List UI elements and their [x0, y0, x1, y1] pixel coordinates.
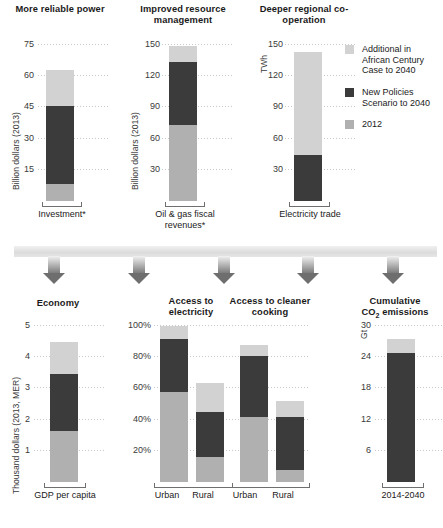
bar-electricity-rural[interactable]	[196, 383, 224, 482]
bar-segment-additional[interactable]	[276, 401, 304, 417]
bar-cooking-rural[interactable]	[276, 401, 304, 482]
chart-title-deeper-regional-cooperation: Deeper regional co-operation	[251, 4, 357, 26]
y-tick-label: 15	[14, 165, 34, 174]
chart-title-line-2-pre: CO	[361, 307, 375, 317]
plot-area-improved-resource-management	[162, 44, 232, 201]
chart-panel-improved-resource-management: Improved resource management Billion dol…	[120, 0, 245, 232]
category-label-electricity-rural: Rural	[183, 490, 223, 501]
arrow-shaft	[387, 256, 399, 273]
axis-tick	[81, 202, 82, 207]
category-label-electricity-trade: Electricity trade	[271, 209, 349, 220]
plot-area-economy	[34, 325, 106, 482]
category-label-oil-gas-fiscal-revenues: Oil & gas fiscal revenues*	[138, 209, 232, 230]
bar-segment-2012[interactable]	[50, 431, 78, 482]
bar-segment-additional[interactable]	[50, 342, 78, 374]
y-tick-label: 60	[14, 71, 34, 80]
bar-segment-2012[interactable]	[240, 417, 268, 482]
bar-segment-new-policies[interactable]	[276, 417, 304, 470]
y-tick-label: 12	[351, 415, 371, 424]
y-tick-label: 30	[136, 165, 160, 174]
axis-tick	[329, 202, 330, 207]
bar-segment-new-policies[interactable]	[196, 412, 224, 457]
chart-title-access-to-electricity: Access to electricity	[155, 296, 227, 318]
x-axis	[382, 487, 424, 488]
bar-oil-gas-fiscal-revenues[interactable]	[169, 46, 197, 201]
y-tick-label: 60	[259, 134, 283, 143]
plot-area-access-group	[154, 325, 310, 482]
y-tick-label: 24	[351, 352, 371, 361]
legend-swatch-additional	[345, 45, 354, 54]
bar-segment-new-policies[interactable]	[160, 339, 188, 392]
bar-segment-2012[interactable]	[276, 470, 304, 483]
y-axis-label-more-reliable-power: Billion dollars (2013)	[11, 112, 21, 190]
y-tick-label: 90	[259, 102, 283, 111]
chart-title-line-2-post: emissions	[380, 307, 429, 317]
chart-panel-deeper-regional-cooperation: Deeper regional co-operation TWh 150 120…	[245, 0, 357, 232]
y-tick-label: 18	[351, 383, 371, 392]
bar-segment-2012[interactable]	[160, 392, 188, 483]
category-label-cumulative-co2: 2014-2040	[379, 490, 427, 501]
bar-segment-new-policies[interactable]	[169, 62, 197, 125]
chart-title-cumulative-co2-emissions: Cumulative CO2 emissions	[349, 296, 441, 321]
category-label-electricity-urban: Urban	[147, 490, 187, 501]
axis-tick	[44, 483, 45, 488]
legend-label-new-policies: New Policies Scenario to 2040	[362, 87, 441, 108]
bar-segment-additional[interactable]	[196, 383, 224, 412]
legend-item-2012[interactable]: 2012	[345, 119, 441, 131]
legend-item-new-policies[interactable]: New Policies Scenario to 2040	[345, 87, 441, 110]
category-label-investment: Investment*	[22, 209, 102, 220]
x-axis	[165, 206, 205, 207]
bar-segment-additional[interactable]	[294, 52, 322, 155]
axis-tick	[85, 483, 86, 488]
bar-segment-additional[interactable]	[169, 46, 197, 62]
bar-segment-new-policies[interactable]	[50, 374, 78, 431]
bar-segment-additional[interactable]	[240, 345, 268, 356]
bar-gdp-per-capita[interactable]	[50, 342, 78, 482]
bar-segment-additional[interactable]	[387, 339, 415, 353]
gridline	[38, 44, 110, 45]
y-tick-label: 3	[16, 383, 30, 392]
bar-segment-new-policies[interactable]	[387, 353, 415, 482]
down-arrow	[128, 256, 150, 284]
arrow-shaft	[48, 256, 60, 273]
bar-cumulative-co2[interactable]	[387, 339, 415, 482]
bar-segment-additional[interactable]	[160, 326, 188, 339]
y-axis-label-economy: Thousand dollars (2013, MER)	[11, 377, 21, 494]
y-tick-label: 150	[259, 40, 283, 49]
arrow-shaft	[133, 256, 145, 273]
bar-segment-2012[interactable]	[46, 184, 74, 201]
category-label-cooking-urban: Urban	[225, 490, 265, 501]
bar-investment[interactable]	[46, 70, 74, 201]
bar-segment-new-policies[interactable]	[294, 155, 322, 201]
y-axis-label-improved-resource-management: Billion dollars (2013)	[130, 112, 140, 190]
axis-tick	[382, 483, 383, 488]
y-tick-label: 20%	[121, 446, 151, 455]
bar-cooking-urban[interactable]	[240, 345, 268, 482]
down-arrow	[43, 256, 65, 284]
y-tick-label: 120	[259, 71, 283, 80]
y-tick-label: 40%	[121, 415, 151, 424]
y-tick-label: 4	[16, 352, 30, 361]
bar-electricity-trade[interactable]	[294, 52, 322, 201]
bar-segment-2012[interactable]	[196, 457, 224, 482]
y-tick-label: 30	[14, 134, 34, 143]
plot-area-cumulative-co2-emissions	[375, 325, 443, 482]
bar-segment-new-policies[interactable]	[240, 356, 268, 418]
bar-segment-additional[interactable]	[46, 70, 74, 106]
bar-segment-new-policies[interactable]	[46, 106, 74, 185]
legend-item-additional[interactable]: Additional in African Century Case to 20…	[345, 44, 441, 78]
y-tick-label: 60%	[121, 383, 151, 392]
category-label-gdp-per-capita: GDP per capita	[29, 490, 101, 501]
y-tick-label: 5	[16, 321, 30, 330]
legend-label-additional: Additional in African Century Case to 20…	[362, 44, 441, 76]
bar-segment-2012[interactable]	[169, 125, 197, 201]
y-tick-label: 120	[136, 71, 160, 80]
bar-electricity-urban[interactable]	[160, 326, 188, 482]
axis-tick	[232, 483, 233, 488]
axis-tick	[204, 202, 205, 207]
axis-tick	[154, 483, 155, 488]
chart-title-improved-resource-management: Improved resource management	[128, 4, 238, 26]
chart-title-access-to-cleaner-cooking: Access to cleaner cooking	[229, 296, 311, 318]
arrow-head	[128, 273, 150, 284]
y-tick-label: 150	[136, 40, 160, 49]
